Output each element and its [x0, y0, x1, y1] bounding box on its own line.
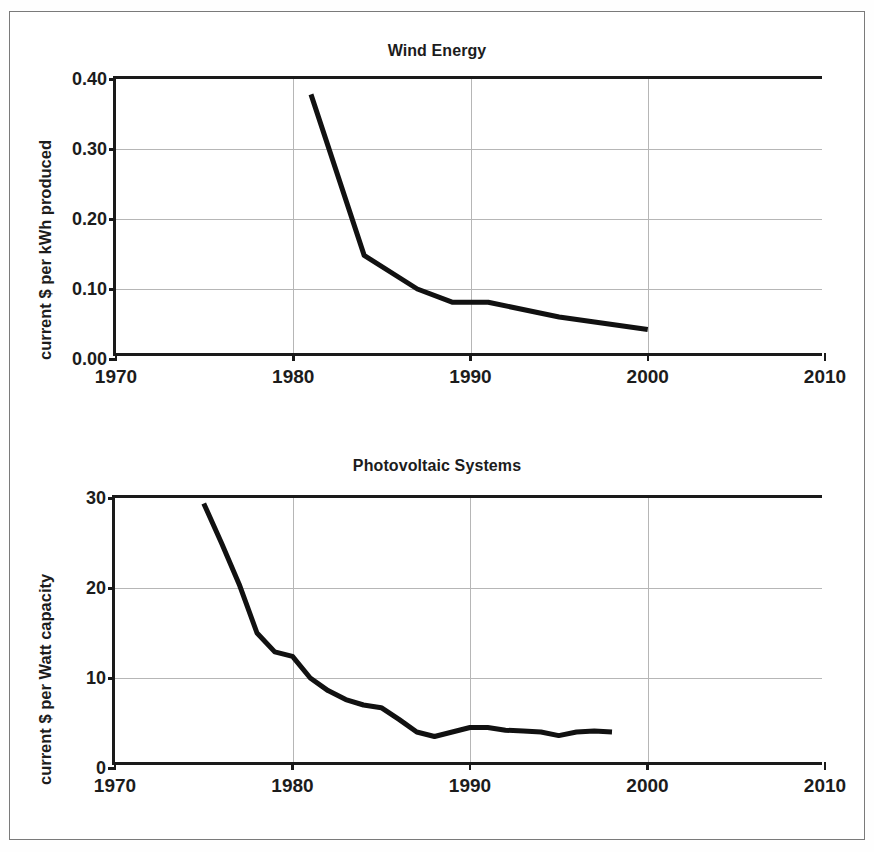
- x-tick-label: 1980: [271, 775, 313, 797]
- x-tick-label: 2010: [804, 775, 846, 797]
- x-tick-label: 1980: [272, 366, 314, 388]
- y-tick-label: 0.30: [72, 139, 116, 160]
- y-tick-label: 0.10: [72, 279, 116, 300]
- x-tick-label: 2010: [804, 366, 846, 388]
- chart-panel-wind-energy: Wind Energy current $ per kWh produced 0…: [0, 30, 874, 400]
- y-tick-label: 30: [86, 488, 115, 509]
- series-line-wind-energy: [116, 79, 825, 359]
- chart-title-wind-energy: Wind Energy: [0, 42, 874, 60]
- x-tick-label: 1970: [95, 366, 137, 388]
- y-tick-label: 20: [86, 578, 115, 599]
- series-line-photovoltaic-systems: [115, 498, 825, 768]
- x-tick-label: 1970: [94, 775, 136, 797]
- y-tick-label: 0.40: [72, 69, 116, 90]
- x-tick-label: 2000: [626, 775, 668, 797]
- x-tick-label: 1990: [449, 366, 491, 388]
- plot-area-wind-energy: 0.40 0.30 0.20 0.10 0.00 1970 1980 1990 …: [113, 76, 822, 356]
- x-tick-label: 2000: [627, 366, 669, 388]
- x-tick-label: 1990: [449, 775, 491, 797]
- chart-panel-photovoltaic-systems: Photovoltaic Systems current $ per Watt …: [0, 445, 874, 840]
- y-axis-label-photovoltaic-systems: current $ per Watt capacity: [36, 574, 55, 785]
- y-tick-label: 10: [86, 668, 115, 689]
- figure-root: Wind Energy current $ per kWh produced 0…: [0, 0, 874, 852]
- y-axis-label-wind-energy: current $ per kWh produced: [36, 140, 55, 360]
- y-tick-label: 0.20: [72, 209, 116, 230]
- plot-area-photovoltaic-systems: 30 20 10 0 1970 1980 1990 2000 2010: [112, 495, 822, 765]
- chart-title-photovoltaic-systems: Photovoltaic Systems: [0, 457, 874, 475]
